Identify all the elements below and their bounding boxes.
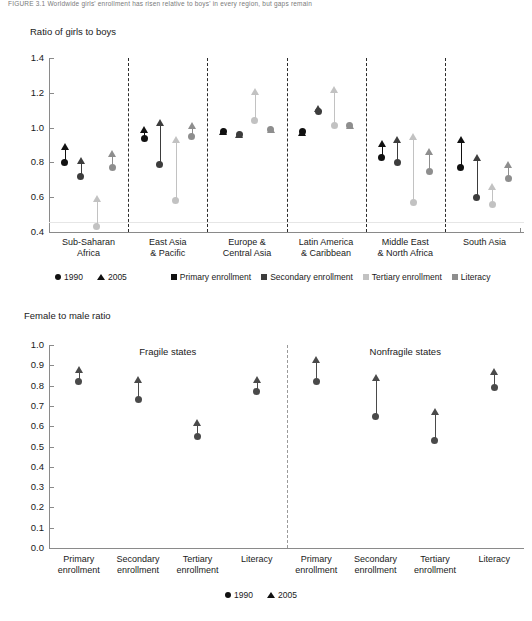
triangle-marker-2005 <box>378 140 386 147</box>
bottom-ytick-label: 0.8 <box>18 381 44 391</box>
top-category-separator <box>366 58 367 232</box>
triangle-marker-2005 <box>346 122 354 129</box>
legend-item-series: Primary enrollment <box>171 272 251 282</box>
connector-line <box>413 136 414 202</box>
bottom-ytick-mark <box>50 528 54 529</box>
triangle-marker-2005 <box>193 419 201 426</box>
triangle-marker-2005 <box>140 126 148 133</box>
top-category-label: South Asia <box>426 237 532 248</box>
bottom-ytick-label: 0.0 <box>18 543 44 553</box>
top-ytick-label: 0.4 <box>18 227 44 237</box>
legend-label: 2005 <box>108 272 127 282</box>
top-ytick-label: 0.6 <box>18 192 44 202</box>
triangle-marker-2005 <box>93 195 101 202</box>
bottom-group-label: Fragile states <box>108 346 228 357</box>
triangle-marker-2005 <box>156 119 164 126</box>
bottom-group-separator <box>287 345 288 548</box>
triangle-marker-2005 <box>75 366 83 373</box>
triangle-marker-2005 <box>409 133 417 140</box>
square-swatch <box>363 274 369 280</box>
connector-line <box>176 140 177 201</box>
bottom-ytick-mark <box>50 487 54 488</box>
circle-marker-1990 <box>251 117 258 124</box>
circle-marker-1990 <box>505 175 512 182</box>
top-category-separator <box>128 58 129 232</box>
legend-item-year: 2005 <box>97 272 127 282</box>
legend-label: 1990 <box>234 590 253 600</box>
figure-caption: FIGURE 3.1 Worldwide girls' enrollment h… <box>8 0 312 7</box>
top-category-separator <box>207 58 208 232</box>
bottom-category-label: Literacy <box>454 554 532 565</box>
top-axis-cap-right <box>520 228 521 232</box>
bottom-ytick-mark <box>50 426 54 427</box>
triangle-marker-2005 <box>298 129 306 136</box>
bottom-ytick-mark <box>50 365 54 366</box>
triangle-marker-2005 <box>235 131 243 138</box>
triangle-marker-2005 <box>134 376 142 383</box>
bottom-ytick-label: 0.4 <box>18 462 44 472</box>
square-swatch <box>261 274 267 280</box>
circle-marker-1990 <box>93 223 100 230</box>
bottom-category-label-line1: Literacy <box>454 554 532 565</box>
circle-marker-1990 <box>313 378 320 385</box>
fragility-chart-panel: Female to male ratio 1.00.90.80.70.60.50… <box>0 310 532 621</box>
triangle-marker-2005 <box>372 374 380 381</box>
triangle-marker-2005 <box>431 408 439 415</box>
triangle-marker-2005 <box>219 128 227 135</box>
top-ytick-mark <box>50 232 54 233</box>
bottom-category-label-line2: enrollment <box>157 565 237 576</box>
top-ytick-label: 1.2 <box>18 88 44 98</box>
top-ytick-label: 1.0 <box>18 123 44 133</box>
bottom-ytick-label: 0.6 <box>18 421 44 431</box>
top-category-separator <box>287 58 288 232</box>
top-x-axis <box>49 232 524 233</box>
circle-marker-1990 <box>489 201 496 208</box>
circle-marker-1990 <box>172 197 179 204</box>
legend-label: 2005 <box>278 590 297 600</box>
legend-label: Primary enrollment <box>180 272 251 282</box>
bottom-ytick-mark <box>50 345 54 346</box>
triangle-marker-2005 <box>504 161 512 168</box>
top-category-label-line2: & North Africa <box>347 248 463 259</box>
top-ytick-label: 0.8 <box>18 157 44 167</box>
top-category-label-line1: South Asia <box>426 237 532 248</box>
triangle-marker-2005 <box>488 183 496 190</box>
circle-marker-1990 <box>253 388 260 395</box>
triangle-marker-2005 <box>188 122 196 129</box>
legend-item-series: Tertiary enrollment <box>363 272 442 282</box>
bottom-ytick-label: 0.1 <box>18 523 44 533</box>
connector-line <box>376 377 377 416</box>
circle-marker-1990 <box>491 384 498 391</box>
circle-marker-1990 <box>457 164 464 171</box>
circle-marker-1990 <box>473 194 480 201</box>
top-chart-legend: 19902005Primary enrollmentSecondary enro… <box>55 272 501 282</box>
connector-line <box>160 122 161 164</box>
circle-marker-1990 <box>188 133 195 140</box>
bottom-ytick-label: 1.0 <box>18 340 44 350</box>
bottom-chart-legend: 19902005 <box>0 590 532 600</box>
triangle-marker-2005 <box>473 154 481 161</box>
connector-line <box>477 157 478 197</box>
bottom-ytick-label: 0.2 <box>18 502 44 512</box>
top-ytick-mark <box>50 58 54 59</box>
circle-marker <box>225 592 231 598</box>
legend-item-series: Literacy <box>452 272 491 282</box>
circle-marker-1990 <box>194 433 201 440</box>
top-faint-rule <box>49 222 524 223</box>
legend-label: Tertiary enrollment <box>372 272 442 282</box>
top-y-axis <box>49 58 50 232</box>
triangle-marker-2005 <box>312 356 320 363</box>
regions-chart-panel: Ratio of girls to boys 1.41.21.00.80.60.… <box>0 26 532 306</box>
top-ytick-mark <box>50 197 54 198</box>
triangle-marker-2005 <box>425 148 433 155</box>
bottom-group-label: Nonfragile states <box>345 346 465 357</box>
top-category-separator <box>445 58 446 232</box>
triangle-marker <box>97 274 105 280</box>
legend-item-year: 1990 <box>225 590 253 600</box>
legend-item-series: Secondary enrollment <box>261 272 353 282</box>
circle-marker-1990 <box>372 413 379 420</box>
bottom-ytick-mark <box>50 548 54 549</box>
circle-marker-1990 <box>109 164 116 171</box>
circle-marker-1990 <box>394 159 401 166</box>
legend-label: 1990 <box>64 272 83 282</box>
